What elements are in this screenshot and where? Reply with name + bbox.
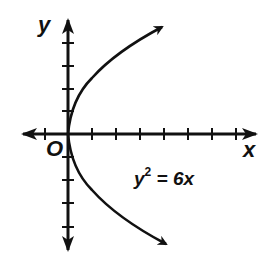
equation-lhs-var: y (134, 168, 145, 189)
equation-label: y2 = 6x (134, 167, 194, 190)
origin-label: O (46, 136, 63, 162)
equation-rest: = 6x (151, 168, 194, 189)
parabola-upper-branch (68, 27, 162, 134)
x-axis-label: x (243, 137, 255, 163)
equation-exponent: 2 (145, 165, 152, 179)
y-axis-label: y (38, 12, 50, 38)
coordinate-plane (0, 0, 263, 267)
